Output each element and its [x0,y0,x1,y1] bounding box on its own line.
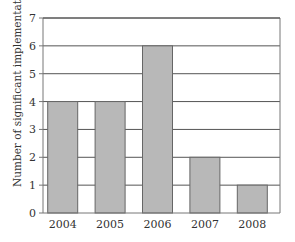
y-tick-label: 1 [29,179,36,192]
y-tick-label: 5 [29,68,36,81]
bar-2008 [237,185,267,213]
y-tick-label: 2 [29,151,36,164]
x-tick-label: 2005 [96,218,124,231]
x-tick-label: 2004 [49,218,77,231]
bar-2004 [48,102,78,213]
x-tick-label: 2008 [238,218,266,231]
bar-2005 [95,102,125,213]
bar-2007 [190,157,220,213]
y-tick-label: 4 [29,96,36,109]
y-tick-label: 7 [29,12,36,25]
x-tick-label: 2006 [144,218,172,231]
y-tick-label: 3 [29,123,36,136]
bar-chart: 0123456720042005200620072008 [0,0,295,242]
y-tick-label: 0 [29,207,36,220]
y-tick-label: 6 [29,40,36,53]
x-tick-label: 2007 [191,218,219,231]
bar-2006 [143,46,173,213]
